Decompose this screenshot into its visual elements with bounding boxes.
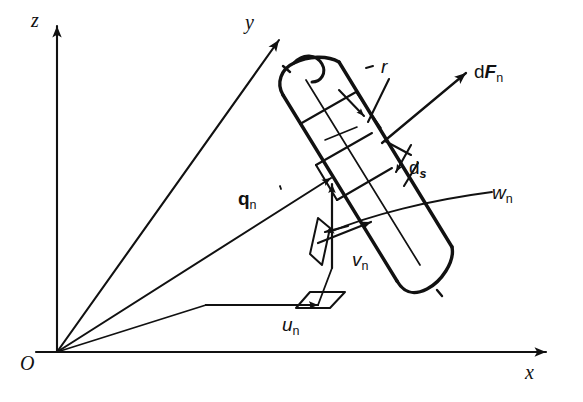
- cylinder-top-ring: [294, 56, 324, 82]
- arc-length-base: s: [420, 167, 427, 181]
- velocity-v-base: v: [352, 249, 362, 270]
- radius-label: r: [381, 57, 387, 76]
- cylinder-axis-line: [306, 80, 420, 265]
- force-subscript: n: [496, 71, 503, 85]
- axis-label-x: x: [525, 362, 534, 382]
- vector-diagram-figure: z y x O qn dFn r ds wn vn un: [0, 0, 583, 402]
- force-prefix: d: [474, 61, 485, 82]
- position-vector-base: q: [238, 188, 250, 209]
- force-vector-label: dFn: [474, 62, 503, 81]
- position-vector-label: qn: [238, 189, 257, 208]
- radius-leader-tip: [366, 66, 373, 68]
- arc-length-prefix: d: [409, 157, 420, 178]
- velocity-w-subscript: n: [506, 192, 513, 206]
- cylinder-bottom-tick: [437, 290, 442, 296]
- projection-base-lines: [57, 268, 332, 352]
- force-base: F: [485, 61, 497, 82]
- axis-label-z: z: [31, 10, 39, 30]
- velocity-w-base: w: [492, 182, 506, 203]
- velocity-w-label: wn: [492, 183, 513, 202]
- velocity-u-label: un: [282, 315, 300, 334]
- velocity-u-subscript: n: [293, 324, 300, 338]
- origin-label: O: [20, 353, 34, 373]
- velocity-u-base: u: [282, 314, 293, 335]
- axis-label-y: y: [245, 12, 254, 32]
- velocity-v-subscript: n: [362, 259, 369, 273]
- q-label-tick: [280, 186, 281, 189]
- force-vector-dFn: [382, 73, 466, 143]
- upper-section-band: [300, 92, 356, 124]
- velocity-v-label: vn: [352, 250, 368, 269]
- arc-length-label: ds: [409, 158, 427, 177]
- position-vector-subscript: n: [250, 198, 257, 212]
